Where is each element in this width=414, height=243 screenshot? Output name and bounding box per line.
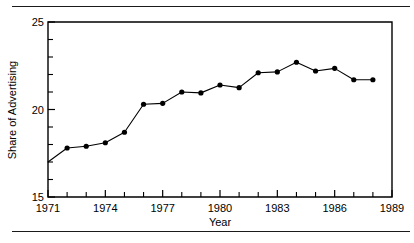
figure-container: 152025 1971197419771980198319861989 Shar… [0, 0, 414, 243]
data-point [370, 77, 375, 82]
x-axis-ticks [48, 190, 392, 197]
data-point [294, 60, 299, 65]
data-point [122, 130, 127, 135]
data-point [198, 90, 203, 95]
line-chart: 152025 1971197419771980198319861989 Shar… [0, 0, 414, 243]
data-point [103, 140, 108, 145]
x-tick-label: 1986 [322, 202, 346, 214]
data-point [65, 145, 70, 150]
data-point [256, 70, 261, 75]
x-tick-label: 1971 [36, 202, 60, 214]
x-tick-label: 1974 [93, 202, 117, 214]
data-point [141, 102, 146, 107]
y-tick-label: 25 [32, 16, 44, 28]
data-point [313, 68, 318, 73]
data-point [217, 82, 222, 87]
data-point [275, 69, 280, 74]
x-tick-label: 1983 [265, 202, 289, 214]
data-point-markers [65, 60, 376, 151]
data-point [332, 66, 337, 71]
data-point [84, 144, 89, 149]
axis-frame [48, 22, 392, 197]
data-line-series [48, 62, 373, 162]
data-point [160, 101, 165, 106]
y-axis-tick-labels: 152025 [32, 16, 44, 203]
data-point [237, 85, 242, 90]
data-point [351, 77, 356, 82]
x-tick-label: 1977 [150, 202, 174, 214]
x-tick-label: 1980 [208, 202, 232, 214]
x-axis-title: Year [209, 216, 232, 228]
y-tick-label: 20 [32, 104, 44, 116]
data-point [179, 89, 184, 94]
x-tick-label: 1989 [380, 202, 404, 214]
x-axis-tick-labels: 1971197419771980198319861989 [36, 202, 404, 214]
y-axis-ticks [48, 22, 55, 197]
y-axis-title: Share of Advertising [6, 61, 18, 159]
